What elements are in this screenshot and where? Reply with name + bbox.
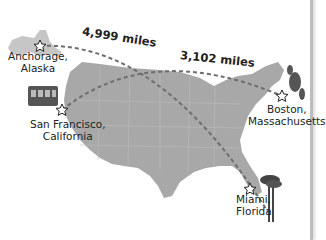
city-label-boston: Boston, Massachusetts (248, 103, 326, 127)
city-label-anchorage: Anchorage, Alaska (8, 50, 68, 74)
cable-car-icon (28, 86, 58, 106)
city-label-miami: Miami, Florida (236, 193, 272, 217)
city-label-san-francisco: San Francisco, California (30, 118, 105, 142)
lobster-icon (287, 65, 305, 100)
star-boston-icon (276, 90, 288, 101)
